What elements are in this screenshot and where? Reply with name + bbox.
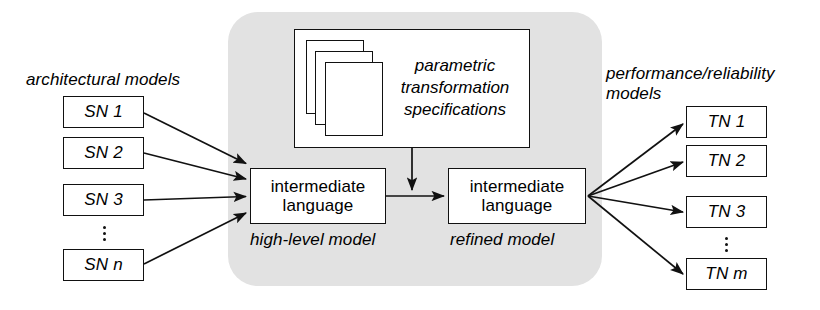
- target-node-tn2[interactable]: TN 2: [686, 145, 767, 177]
- source-node-sn2[interactable]: SN 2: [63, 137, 144, 169]
- source-node-sn1[interactable]: SN 1: [63, 96, 144, 128]
- intermediate-language-refined[interactable]: intermediate language: [448, 168, 586, 224]
- source-node-snn[interactable]: SN n: [63, 249, 144, 281]
- source-nodes-ellipsis: [84, 223, 124, 241]
- caption-refined-model: refined model: [450, 230, 600, 250]
- arrow-sn1-to-il: [144, 113, 246, 164]
- spec-box-label: parametric transformation specifications: [388, 55, 522, 120]
- caption-architectural-models: architectural models: [26, 70, 226, 90]
- intermediate-language-refined-label: intermediate language: [470, 177, 565, 215]
- target-nodes-ellipsis: [706, 234, 746, 252]
- source-node-snn-label: SN n: [84, 255, 123, 274]
- source-node-sn3-label: SN 3: [84, 190, 123, 209]
- caption-performance-reliability-models: performance/reliability models: [606, 64, 820, 104]
- arrow-il-to-tn2: [588, 162, 683, 196]
- source-node-sn2-label: SN 2: [84, 143, 123, 162]
- target-node-tn2-label: TN 2: [708, 151, 746, 170]
- target-node-tnm[interactable]: TN m: [686, 258, 767, 290]
- target-node-tn1-label: TN 1: [708, 112, 746, 131]
- target-node-tnm-label: TN m: [705, 264, 747, 283]
- arrow-sn3-to-il: [144, 197, 246, 201]
- intermediate-language-high-level-label: intermediate language: [271, 177, 366, 215]
- target-node-tn3-label: TN 3: [708, 202, 746, 221]
- intermediate-language-high-level[interactable]: intermediate language: [250, 168, 386, 224]
- target-node-tn1[interactable]: TN 1: [686, 106, 767, 138]
- source-node-sn1-label: SN 1: [84, 102, 123, 121]
- arrow-il-to-tn3: [588, 196, 683, 212]
- spec-sheet-front: [325, 62, 383, 136]
- arrow-il-to-tn1: [588, 124, 683, 196]
- source-node-sn3[interactable]: SN 3: [63, 184, 144, 216]
- arrow-il-to-tnm: [588, 196, 683, 274]
- diagram-canvas: architectural models SN 1 SN 2 SN 3 SN n…: [0, 0, 820, 310]
- arrow-sn2-to-il: [144, 153, 246, 179]
- caption-high-level-model: high-level model: [250, 230, 410, 250]
- arrow-snn-to-il: [144, 213, 246, 264]
- target-node-tn3[interactable]: TN 3: [686, 196, 767, 228]
